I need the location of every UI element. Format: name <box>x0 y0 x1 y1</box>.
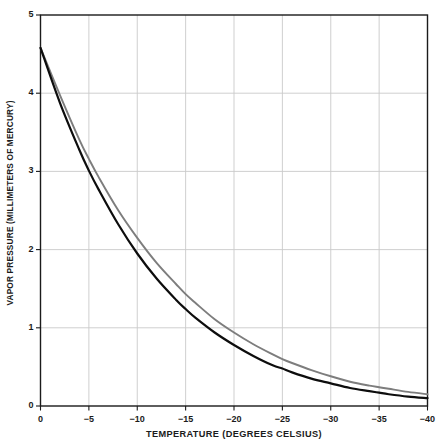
x-axis-title: TEMPERATURE (DEGREES CELSIUS) <box>40 429 428 439</box>
x-tick-label: −5 <box>69 414 109 424</box>
x-tick-label: −25 <box>262 414 302 424</box>
x-tick-label: −30 <box>311 414 351 424</box>
x-tick-label: −10 <box>117 414 157 424</box>
y-tick-label: 5 <box>14 9 34 19</box>
x-tick-label: −35 <box>359 414 399 424</box>
x-tick-label: −20 <box>214 414 254 424</box>
y-tick-label: 4 <box>14 87 34 97</box>
y-tick-label: 0 <box>14 400 34 410</box>
x-tick-label: 0 <box>21 414 61 424</box>
plot-area <box>0 0 440 448</box>
y-tick-label: 2 <box>14 244 34 254</box>
y-tick-label: 3 <box>14 165 34 175</box>
x-tick-label: −40 <box>408 414 440 424</box>
vapor-pressure-chart-figure: VAPOR PRESSURE (MILLIMETERS OF MERCURY) … <box>0 0 440 448</box>
x-tick-label: −15 <box>166 414 206 424</box>
axis-tick-marks <box>36 15 428 411</box>
grid-lines <box>41 15 428 406</box>
y-tick-label: 1 <box>14 322 34 332</box>
